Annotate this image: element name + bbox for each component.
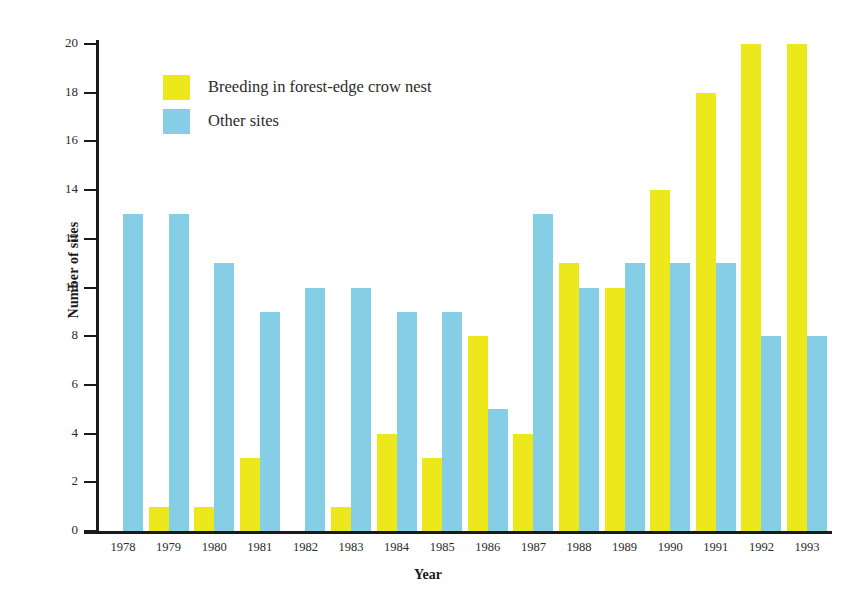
bar-other-sites [397, 312, 417, 531]
y-axis-tick [84, 140, 96, 142]
y-axis-tick-label: 0 [44, 522, 78, 538]
x-axis-tick-label: 1993 [777, 540, 837, 555]
bar-other-sites [670, 263, 690, 531]
y-axis-tick [84, 481, 96, 483]
bar-group [696, 44, 736, 531]
bar-breeding-forest-edge [240, 458, 260, 531]
bar-other-sites [305, 288, 325, 532]
bar-group [741, 44, 781, 531]
bar-other-sites [123, 214, 143, 531]
bar-other-sites [625, 263, 645, 531]
bar-group [103, 44, 143, 531]
bar-group [559, 44, 599, 531]
bar-breeding-forest-edge [696, 93, 716, 531]
y-axis-tick [84, 384, 96, 386]
bar-breeding-forest-edge [513, 434, 533, 531]
bar-other-sites [716, 263, 736, 531]
bar-other-sites [260, 312, 280, 531]
chart-legend: Breeding in forest-edge crow nestOther s… [163, 72, 432, 140]
y-axis-tick [84, 335, 96, 337]
y-axis-tick-label: 16 [44, 132, 78, 148]
y-axis-tick [84, 530, 96, 532]
bar-breeding-forest-edge [559, 263, 579, 531]
bar-other-sites [442, 312, 462, 531]
bar-other-sites [351, 288, 371, 532]
bar-breeding-forest-edge [149, 507, 169, 531]
x-axis-title: Year [0, 567, 856, 583]
legend-label: Breeding in forest-edge crow nest [208, 77, 432, 97]
bar-other-sites [214, 263, 234, 531]
bar-group [513, 44, 553, 531]
bar-breeding-forest-edge [377, 434, 397, 531]
y-axis-tick [84, 238, 96, 240]
y-axis-tick-label: 20 [44, 35, 78, 51]
y-axis-tick [84, 433, 96, 435]
bar-breeding-forest-edge [787, 44, 807, 531]
y-axis-tick-label: 2 [44, 473, 78, 489]
bar-other-sites [579, 288, 599, 532]
legend-item: Other sites [163, 106, 432, 136]
y-axis-line [96, 40, 99, 534]
bar-other-sites [533, 214, 553, 531]
bar-breeding-forest-edge [605, 288, 625, 532]
y-axis-tick-label: 6 [44, 376, 78, 392]
legend-label: Other sites [208, 111, 279, 131]
bar-other-sites [807, 336, 827, 531]
bar-group [605, 44, 645, 531]
bar-breeding-forest-edge [194, 507, 214, 531]
bar-other-sites [488, 409, 508, 531]
y-axis-tick-label: 18 [44, 84, 78, 100]
bar-breeding-forest-edge [422, 458, 442, 531]
bar-group [468, 44, 508, 531]
bar-breeding-forest-edge [650, 190, 670, 531]
bar-group [787, 44, 827, 531]
bar-other-sites [169, 214, 189, 531]
y-axis-tick [84, 92, 96, 94]
y-axis-tick-label: 4 [44, 425, 78, 441]
x-axis-line [84, 531, 832, 534]
y-axis-title: Number of sites [66, 190, 82, 350]
legend-swatch-icon [163, 75, 190, 100]
y-axis-tick [84, 189, 96, 191]
bar-other-sites [761, 336, 781, 531]
bar-group [650, 44, 690, 531]
legend-item: Breeding in forest-edge crow nest [163, 72, 432, 102]
bar-breeding-forest-edge [741, 44, 761, 531]
y-axis-tick [84, 287, 96, 289]
y-axis-tick [84, 43, 96, 45]
bar-breeding-forest-edge [468, 336, 488, 531]
bar-breeding-forest-edge [331, 507, 351, 531]
legend-swatch-icon [163, 109, 190, 134]
chart-page: 02468101214161820 Number of sites 197819… [0, 0, 856, 606]
